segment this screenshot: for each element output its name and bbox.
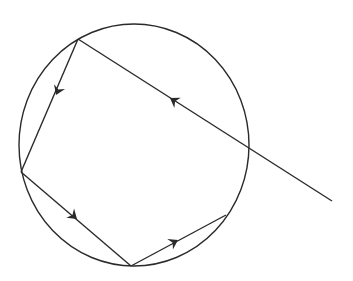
diagram-canvas <box>0 0 353 281</box>
circle-boundary <box>19 24 249 266</box>
incident-ray <box>78 39 332 201</box>
ray-reflection-diagram <box>0 0 353 281</box>
reflected-ray-3 <box>131 215 226 266</box>
arrow-icon <box>167 235 181 250</box>
reflected-ray-2 <box>21 172 131 266</box>
arrow-icon <box>167 93 181 108</box>
reflected-ray-1 <box>21 39 78 172</box>
